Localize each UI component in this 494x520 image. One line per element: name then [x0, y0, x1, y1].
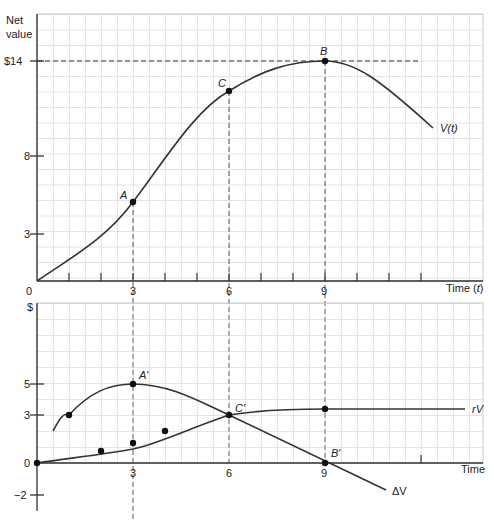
top-ylabel-net: Net: [6, 14, 23, 26]
top-ytick-14: $14: [4, 55, 22, 67]
bottom-xtick-3: 3: [130, 467, 136, 479]
bottom-ytick-0: 0: [24, 457, 30, 469]
label-B-prime: B′: [331, 447, 341, 459]
point-rV-t0: [34, 460, 40, 466]
top-ytick-8: 8: [24, 150, 30, 162]
point-delta-V-t1: [66, 412, 72, 418]
bottom-ytick-minus2: −2: [14, 489, 27, 501]
point-A-prime: [130, 381, 136, 387]
top-xtick-9: 9: [321, 285, 327, 297]
bottom-ytick-5: 5: [24, 378, 30, 390]
top-ylabel-value: value: [6, 28, 32, 40]
bottom-ylabel: $: [27, 301, 33, 313]
curve-label-rV: rV: [472, 403, 485, 415]
point-A: [130, 199, 136, 205]
point-C-prime: [226, 412, 232, 418]
bottom-chart: $ 5 3 0 −2 3 6 9 Time A′ C′ B′ rV ΔV: [14, 301, 485, 511]
top-grid: [37, 14, 483, 281]
chart-figure: Net value $14 8 3 0 3 6 9 Time (t) V(t) …: [0, 0, 494, 520]
bottom-xlabel: Time: [461, 463, 485, 475]
point-rV-t4: [162, 428, 168, 434]
top-xtick-6: 6: [226, 285, 232, 297]
bottom-xtick-6: 6: [226, 467, 232, 479]
top-xtick-0: 0: [26, 285, 32, 297]
curve-label-delta-V: ΔV: [392, 485, 407, 497]
point-B-prime: [322, 460, 328, 466]
label-C-prime: C′: [235, 402, 246, 414]
top-xtick-3: 3: [130, 285, 136, 297]
point-C: [226, 88, 232, 94]
bottom-xtick-9: 9: [321, 467, 327, 479]
label-B: B: [320, 45, 327, 57]
point-rV-t3: [130, 440, 136, 446]
label-C: C: [218, 77, 226, 89]
top-ytick-3: 3: [24, 228, 30, 240]
bottom-grid: [37, 303, 483, 463]
curve-label-V: V(t): [440, 122, 458, 134]
top-xlabel: Time (t): [446, 282, 484, 294]
label-A-prime: A′: [138, 369, 149, 381]
bottom-ytick-3: 3: [24, 409, 30, 421]
point-B: [322, 58, 328, 64]
point-rV-t9: [322, 406, 328, 412]
label-A: A: [119, 189, 127, 201]
point-rV-t2: [98, 448, 104, 454]
